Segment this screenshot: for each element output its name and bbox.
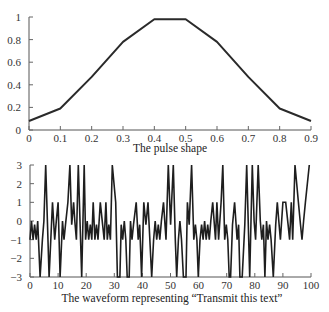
x-tick-label: 0.2 bbox=[85, 132, 99, 144]
x-tick-label: 40 bbox=[137, 279, 149, 291]
y-tick-label: −3 bbox=[10, 271, 22, 283]
bottom-x-ticks: 0102030405060708090100 bbox=[27, 273, 320, 291]
y-tick-label: 0 bbox=[17, 215, 23, 227]
x-tick-label: 20 bbox=[81, 279, 93, 291]
y-tick-label: 0.6 bbox=[7, 56, 21, 68]
x-tick-label: 0 bbox=[27, 279, 33, 291]
y-tick-label: 0 bbox=[16, 124, 22, 136]
y-tick-label: 0.8 bbox=[7, 34, 21, 46]
x-tick-label: 0.1 bbox=[53, 132, 67, 144]
y-tick-label: 0.2 bbox=[7, 101, 21, 113]
y-tick-label: −2 bbox=[10, 252, 22, 264]
y-tick-label: 1 bbox=[16, 11, 22, 23]
x-tick-label: 60 bbox=[193, 279, 205, 291]
waveform-line bbox=[30, 165, 309, 277]
bottom-chart-caption: The waveform representing “Transmit this… bbox=[62, 292, 283, 305]
x-tick-label: 0.9 bbox=[304, 132, 318, 144]
pulse-shape-chart: 00.20.40.60.81 00.10.20.30.40.50.60.70.8… bbox=[7, 11, 318, 155]
x-tick-label: 50 bbox=[165, 279, 177, 291]
x-tick-label: 0.6 bbox=[210, 132, 224, 144]
x-tick-label: 0.7 bbox=[241, 132, 255, 144]
x-tick-label: 30 bbox=[109, 279, 121, 291]
x-tick-label: 0.3 bbox=[116, 132, 130, 144]
top-chart-caption: The pulse shape bbox=[133, 142, 207, 155]
x-tick-label: 80 bbox=[249, 279, 261, 291]
y-tick-label: 3 bbox=[17, 159, 23, 171]
figure: 00.20.40.60.81 00.10.20.30.40.50.60.70.8… bbox=[0, 0, 329, 312]
x-tick-label: 90 bbox=[277, 279, 289, 291]
x-tick-label: 100 bbox=[303, 279, 320, 291]
pulse-shape-line bbox=[29, 19, 311, 121]
x-tick-label: 70 bbox=[221, 279, 233, 291]
x-tick-label: 10 bbox=[53, 279, 65, 291]
y-tick-label: 0.4 bbox=[7, 79, 21, 91]
y-tick-label: −1 bbox=[10, 234, 22, 246]
y-tick-label: 1 bbox=[17, 196, 23, 208]
x-tick-label: 0 bbox=[26, 132, 32, 144]
waveform-chart: −3−2−10123 0102030405060708090100 The wa… bbox=[10, 159, 319, 305]
y-tick-label: 2 bbox=[17, 178, 23, 190]
x-tick-label: 0.8 bbox=[273, 132, 287, 144]
